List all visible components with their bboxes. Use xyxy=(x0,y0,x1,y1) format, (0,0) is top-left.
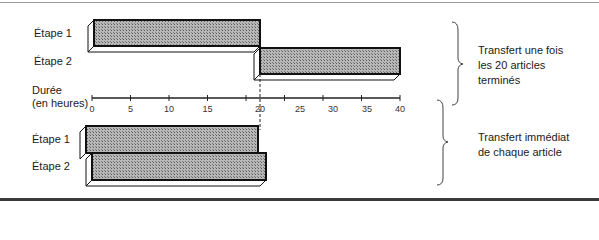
bar-top-step1 xyxy=(88,20,260,52)
label-bottom-step1: Étape 1 xyxy=(32,133,70,146)
note-group1-line1: Transfert une fois xyxy=(478,43,563,58)
bottom-rule xyxy=(0,198,599,201)
label-bottom-step2: Étape 2 xyxy=(32,160,70,173)
brace-group1 xyxy=(452,22,463,105)
axis-title-line2: (en heures) xyxy=(32,97,88,110)
note-group2-line1: Transfert immédiat xyxy=(478,130,569,145)
tick-label-15: 15 xyxy=(202,104,212,114)
tick-label-5: 5 xyxy=(128,104,133,114)
tick-label-30: 30 xyxy=(328,104,338,114)
note-group2-line2: de chaque article xyxy=(478,145,569,160)
note-group1: Transfert une fois les 20 articles termi… xyxy=(478,43,563,88)
axis-title-line1: Durée xyxy=(32,84,62,97)
label-top-step2: Étape 2 xyxy=(34,55,72,68)
note-group1-line3: terminés xyxy=(478,73,563,88)
note-group1-line2: les 20 articles xyxy=(478,58,563,73)
label-top-step1: Étape 1 xyxy=(34,27,72,40)
note-group2: Transfert immédiat de chaque article xyxy=(478,130,569,160)
tick-label-35: 35 xyxy=(362,104,372,114)
tick-label-10: 10 xyxy=(164,104,174,114)
tick-label-20: 20 xyxy=(255,104,265,114)
tick-label-40: 40 xyxy=(395,104,405,114)
x-axis xyxy=(92,95,400,101)
tick-label-0: 0 xyxy=(89,104,94,114)
bar-bottom-step2 xyxy=(86,153,266,186)
brace-group2 xyxy=(437,100,448,185)
tick-label-25: 25 xyxy=(295,104,305,114)
bar-top-step2 xyxy=(254,48,400,80)
